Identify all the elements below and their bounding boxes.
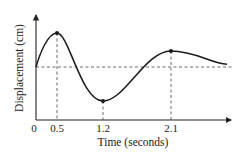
displacement-chart: 00.51.22.1 Time (seconds) Displacement (… <box>0 0 243 156</box>
x-tick-label: 2.1 <box>164 122 178 134</box>
data-point-maximum <box>55 31 59 35</box>
x-tick-label: 0 <box>31 122 37 134</box>
x-tick-label: 1.2 <box>96 122 110 134</box>
data-point-local-maximum <box>169 49 173 53</box>
y-axis-label: Displacement (cm) <box>13 24 26 112</box>
data-point-minimum <box>101 99 105 103</box>
x-axis-label: Time (seconds) <box>98 136 169 149</box>
x-tick-label: 0.5 <box>50 122 64 134</box>
